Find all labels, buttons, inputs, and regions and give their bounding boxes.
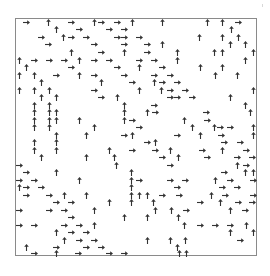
right-arrow-icon: [167, 94, 174, 101]
right-arrow-icon: [212, 222, 219, 229]
right-arrow-icon: [182, 87, 189, 94]
up-arrow-icon: [31, 102, 38, 109]
up-arrow-icon: [53, 147, 60, 154]
right-arrow-icon: [183, 207, 190, 214]
right-arrow-icon: [38, 34, 45, 41]
right-arrow-icon: [91, 87, 98, 94]
right-arrow-icon: [227, 177, 234, 184]
right-arrow-icon: [121, 26, 128, 33]
up-arrow-icon: [31, 139, 38, 146]
right-arrow-icon: [91, 57, 98, 64]
up-arrow-icon: [174, 57, 181, 64]
right-arrow-icon: [203, 109, 210, 116]
right-arrow-icon: [23, 19, 30, 26]
right-arrow-icon: [61, 57, 68, 64]
right-arrow-icon: [167, 177, 174, 184]
up-arrow-icon: [38, 79, 45, 86]
up-arrow-icon: [83, 132, 90, 139]
right-arrow-icon: [174, 94, 181, 101]
right-arrow-icon: [75, 250, 82, 257]
right-arrow-icon: [237, 237, 244, 244]
right-arrow-icon: [114, 19, 121, 26]
right-arrow-icon: [204, 117, 211, 124]
up-arrow-icon: [250, 229, 257, 236]
up-arrow-icon: [46, 102, 53, 109]
up-arrow-icon: [53, 132, 60, 139]
up-arrow-icon: [150, 199, 157, 206]
right-arrow-icon: [121, 41, 128, 48]
up-arrow-icon: [144, 237, 151, 244]
up-arrow-icon: [46, 117, 53, 124]
right-arrow-icon: [68, 19, 75, 26]
up-arrow-icon: [128, 192, 135, 199]
right-arrow-icon: [167, 162, 174, 169]
right-arrow-icon: [91, 72, 98, 79]
up-arrow-icon: [168, 207, 175, 214]
up-arrow-icon: [144, 214, 151, 221]
up-arrow-icon: [76, 177, 83, 184]
right-arrow-icon: [243, 162, 250, 169]
up-arrow-icon: [219, 19, 226, 26]
up-arrow-icon: [174, 49, 181, 56]
right-arrow-icon: [38, 184, 45, 191]
right-arrow-icon: [167, 72, 174, 79]
up-arrow-icon: [152, 139, 159, 146]
up-arrow-icon: [31, 117, 38, 124]
up-arrow-icon: [53, 117, 60, 124]
right-arrow-icon: [31, 222, 38, 229]
up-arrow-icon: [144, 109, 151, 116]
right-arrow-icon: [68, 229, 75, 236]
right-arrow-icon: [98, 49, 105, 56]
right-arrow-icon: [204, 154, 211, 161]
right-arrow-icon: [243, 147, 250, 154]
right-arrow-icon: [129, 117, 136, 124]
right-arrow-icon: [106, 26, 113, 33]
right-arrow-icon: [106, 57, 113, 64]
corner-mark: [262, 4, 263, 7]
up-arrow-icon: [53, 109, 60, 116]
right-arrow-icon: [176, 192, 183, 199]
right-arrow-icon: [159, 64, 166, 71]
up-arrow-icon: [242, 57, 249, 64]
up-arrow-icon: [68, 49, 75, 56]
up-arrow-icon: [111, 154, 118, 161]
up-arrow-icon: [76, 72, 83, 79]
right-arrow-icon: [159, 79, 166, 86]
right-arrow-icon: [218, 132, 225, 139]
right-arrow-icon: [152, 147, 159, 154]
up-arrow-icon: [242, 102, 249, 109]
up-arrow-icon: [31, 109, 38, 116]
right-arrow-icon: [91, 41, 98, 48]
up-arrow-icon: [158, 87, 165, 94]
up-arrow-icon: [76, 117, 83, 124]
up-arrow-icon: [227, 94, 234, 101]
up-arrow-icon: [212, 177, 219, 184]
right-arrow-icon: [234, 184, 241, 191]
up-arrow-icon: [38, 154, 45, 161]
right-arrow-icon: [76, 26, 83, 33]
up-arrow-icon: [129, 132, 136, 139]
up-arrow-icon: [121, 214, 128, 221]
right-arrow-icon: [53, 199, 60, 206]
up-arrow-icon: [227, 207, 234, 214]
up-arrow-icon: [53, 250, 60, 257]
right-arrow-icon: [249, 199, 256, 206]
right-arrow-icon: [68, 199, 75, 206]
right-arrow-icon: [221, 169, 228, 176]
right-arrow-icon: [98, 94, 105, 101]
up-arrow-icon: [167, 237, 174, 244]
right-arrow-icon: [83, 34, 90, 41]
up-arrow-icon: [91, 222, 98, 229]
right-arrow-icon: [91, 237, 98, 244]
right-arrow-icon: [46, 207, 53, 214]
right-arrow-icon: [250, 192, 257, 199]
up-arrow-icon: [227, 229, 234, 236]
up-arrow-icon: [61, 192, 68, 199]
up-arrow-icon: [228, 26, 235, 33]
up-arrow-icon: [106, 147, 113, 154]
up-arrow-icon: [121, 49, 128, 56]
up-arrow-icon: [250, 87, 257, 94]
up-arrow-icon: [219, 49, 226, 56]
up-arrow-icon: [23, 64, 30, 71]
up-arrow-icon: [83, 192, 90, 199]
